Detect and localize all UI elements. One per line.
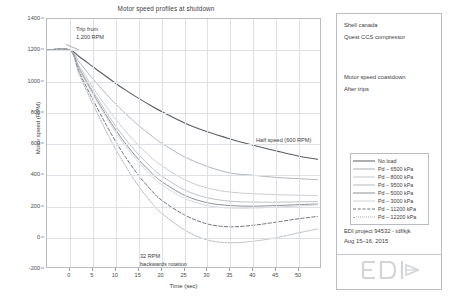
title-block: Shell canada Quest CCS compressor Motor … (336, 13, 442, 290)
backwards-annotation: 32 RPM backwards rotation (140, 253, 187, 268)
legend-item[interactable]: Pd – 9500 kPa (353, 181, 425, 189)
gridline-vertical (116, 19, 117, 267)
x-tick-mark (138, 268, 139, 271)
y-tick-mark (41, 205, 44, 206)
x-tick-label: 25 (180, 272, 186, 278)
y-tick-mark (41, 49, 44, 50)
legend-label: Pd – 6500 kPa (378, 166, 413, 172)
legend-swatch (353, 158, 375, 164)
x-tick-label: 30 (203, 272, 209, 278)
legend-item[interactable]: Pd – 5000 kPa (353, 189, 425, 197)
gridline-horizontal (47, 207, 320, 208)
chart-pane: Motor speed profiles at shutdown -200020… (0, 0, 332, 303)
x-tick-mark (69, 268, 70, 271)
x-tick-label: 35 (226, 272, 232, 278)
gridline-vertical (185, 19, 186, 267)
legend-swatch (353, 190, 375, 196)
x-axis-ticks: 05101520253035404550 (46, 270, 321, 284)
x-tick-mark (206, 268, 207, 271)
gridline-horizontal (47, 175, 320, 176)
project-reference: EDI project 94532 - tdf/kjk (344, 228, 411, 234)
legend-item[interactable]: Pd – 8000 kPa (353, 173, 425, 181)
gridline-horizontal (47, 50, 320, 51)
y-tick-label: 1400 (28, 15, 40, 21)
x-tick-label: 0 (67, 272, 70, 278)
x-tick-label: 5 (90, 272, 93, 278)
gridline-vertical (93, 19, 94, 267)
x-axis-title: Time (sec) (46, 283, 321, 289)
legend-swatch (353, 206, 375, 212)
gridline-vertical (139, 19, 140, 267)
gridline-horizontal (47, 82, 320, 83)
legend-label: Pd – 5000 kPa (378, 190, 413, 196)
x-tick-mark (184, 268, 185, 271)
legend-swatch (353, 182, 375, 188)
gridline-vertical (253, 19, 254, 267)
x-tick-label: 20 (157, 272, 163, 278)
legend-swatch (353, 166, 375, 172)
legend-label: No load (378, 158, 397, 164)
trip-annotation: Trip from 1,200 RPM (76, 26, 104, 41)
y-axis-title: Motor speed (RPM) (35, 68, 41, 188)
gridline-vertical (70, 19, 71, 267)
y-tick-mark (41, 174, 44, 175)
legend-swatch (353, 214, 375, 220)
y-tick-mark (41, 111, 44, 112)
gridline-horizontal (47, 238, 320, 239)
x-tick-mark (298, 268, 299, 271)
y-tick-mark (41, 268, 44, 269)
legend-label: Pd – 3000 kPa (378, 198, 413, 204)
subject-line: Motor speed coastdown (344, 74, 406, 80)
edi-logo-mark (359, 259, 419, 281)
x-tick-label: 15 (135, 272, 141, 278)
legend-swatch (353, 198, 375, 204)
legend-item[interactable]: Pd – 11200 kPa (353, 205, 425, 213)
gridline-vertical (230, 19, 231, 267)
gridline-vertical (207, 19, 208, 267)
chart-legend: No loadPd – 6500 kPaPd – 8000 kPaPd – 95… (350, 153, 429, 225)
gridline-vertical (162, 19, 163, 267)
x-tick-mark (161, 268, 162, 271)
x-tick-label: 40 (249, 272, 255, 278)
x-tick-label: 45 (272, 272, 278, 278)
y-tick-label: -200 (29, 265, 40, 271)
y-tick-label: 1200 (28, 46, 40, 52)
project-date: Aug 15–16, 2015 (344, 238, 388, 244)
x-tick-mark (115, 268, 116, 271)
y-tick-mark (41, 80, 44, 81)
condition-line: After trips (344, 86, 369, 92)
x-tick-mark (275, 268, 276, 271)
x-tick-mark (92, 268, 93, 271)
legend-swatch (353, 174, 375, 180)
y-tick-mark (41, 143, 44, 144)
gridline-horizontal (47, 113, 320, 114)
x-tick-label: 50 (295, 272, 301, 278)
edi-logo (337, 255, 441, 285)
legend-item[interactable]: No load (353, 157, 425, 165)
project-name: Quest CCS compressor (344, 34, 405, 40)
client-name: Shell canada (344, 22, 378, 28)
legend-item[interactable]: Pd – 12200 kPa (353, 213, 425, 221)
x-tick-mark (252, 268, 253, 271)
y-tick-mark (41, 236, 44, 237)
y-tick-label: 0 (37, 234, 40, 240)
info-pane: Shell canada Quest CCS compressor Motor … (332, 0, 450, 303)
legend-item[interactable]: Pd – 3000 kPa (353, 197, 425, 205)
legend-label: Pd – 11200 kPa (378, 206, 416, 212)
y-tick-mark (41, 18, 44, 19)
legend-label: Pd – 8000 kPa (378, 174, 413, 180)
y-tick-label: 200 (31, 203, 40, 209)
half-speed-annotation: Half speed (600 RPM) (256, 137, 311, 145)
legend-item[interactable]: Pd – 6500 kPa (353, 165, 425, 173)
legend-label: Pd – 9500 kPa (378, 182, 413, 188)
x-tick-mark (229, 268, 230, 271)
legend-label: Pd – 12200 kPa (378, 214, 416, 220)
chart-page: Motor speed profiles at shutdown -200020… (0, 0, 450, 303)
chart-title: Motor speed profiles at shutdown (0, 5, 332, 12)
x-tick-label: 10 (112, 272, 118, 278)
